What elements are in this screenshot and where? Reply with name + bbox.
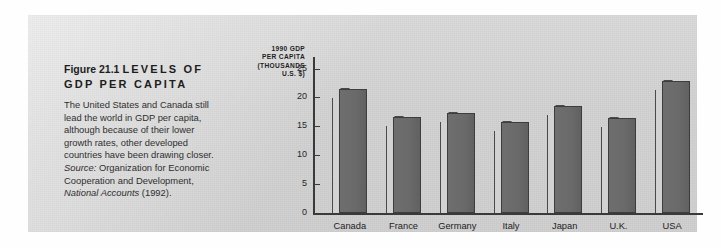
figure-number: Figure 21.1	[64, 63, 119, 75]
y-tick-label-20: 20	[283, 92, 307, 101]
y-axis-line	[313, 57, 315, 215]
y-axis-title-line-0: 1990 GDP	[233, 45, 305, 53]
figure-panel: Figure 21.1 LEVELS OF GDP PER CAPITA The…	[28, 15, 697, 232]
bar-front-face	[608, 118, 636, 213]
x-label-japan: Japan	[537, 221, 592, 231]
y-tick-label-25: 25	[283, 64, 307, 73]
y-axis-title-line-1: PER CAPITA	[233, 53, 305, 61]
bar-front-face	[662, 81, 690, 213]
x-label-france: France	[376, 221, 431, 231]
y-tick-mark-5	[315, 184, 320, 185]
y-axis-title: 1990 GDPPER CAPITA(THOUSANDSU.S. $)	[233, 45, 305, 78]
x-label-canada: Canada	[322, 221, 377, 231]
bar-front-face	[501, 122, 529, 213]
bar-chart: 1990 GDPPER CAPITA(THOUSANDSU.S. $) 0510…	[233, 43, 713, 243]
x-label-italy: Italy	[484, 221, 539, 231]
bar-front-face	[447, 113, 475, 213]
figure-caption: Figure 21.1 LEVELS OF GDP PER CAPITA The…	[64, 62, 224, 200]
y-tick-mark-10	[315, 155, 320, 156]
description-text: The United States and Canada still lead …	[64, 99, 214, 160]
x-axis-line	[313, 213, 703, 215]
bar-front-face	[393, 117, 421, 213]
source-publication: National Accounts	[64, 187, 139, 198]
bar-italy[interactable]	[494, 122, 529, 213]
y-tick-label-0: 0	[283, 208, 307, 217]
source-year: (1992).	[139, 187, 171, 198]
y-tick-label-5: 5	[283, 179, 307, 188]
x-label-germany: Germany	[430, 221, 485, 231]
y-tick-label-15: 15	[283, 121, 307, 130]
plot-area: 0510152025 CanadaFranceGermanyItalyJapan…	[313, 57, 703, 215]
y-tick-mark-20	[315, 97, 320, 98]
bar-germany[interactable]	[440, 113, 475, 213]
bar-front-face	[554, 106, 582, 213]
y-tick-mark-25	[315, 69, 320, 70]
bar-canada[interactable]	[332, 89, 367, 213]
figure-description: The United States and Canada still lead …	[64, 99, 224, 200]
source-label: Source:	[64, 162, 96, 173]
y-tick-mark-0	[315, 213, 320, 214]
figure-container: Figure 21.1 LEVELS OF GDP PER CAPITA The…	[0, 0, 721, 248]
y-tick-label-10: 10	[283, 150, 307, 159]
bar-usa[interactable]	[655, 81, 690, 213]
x-label-uk: U.K.	[591, 221, 646, 231]
x-label-usa: USA	[645, 221, 700, 231]
bar-japan[interactable]	[547, 106, 582, 213]
bar-front-face	[339, 89, 367, 213]
figure-heading: Figure 21.1 LEVELS OF GDP PER CAPITA	[64, 62, 224, 92]
y-tick-mark-15	[315, 126, 320, 127]
bar-uk[interactable]	[601, 118, 636, 213]
bar-france[interactable]	[386, 117, 421, 213]
